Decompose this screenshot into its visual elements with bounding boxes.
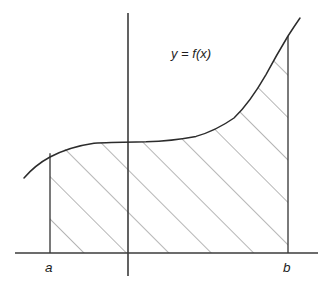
figure-canvas: y = f(x) a b xyxy=(0,0,333,286)
upper-limit-label: b xyxy=(283,260,291,275)
integral-area-figure: y = f(x) a b xyxy=(0,0,333,286)
hatch-pattern-fill xyxy=(40,10,300,260)
shaded-area-under-curve xyxy=(40,10,300,260)
function-label: y = f(x) xyxy=(170,46,211,61)
lower-limit-label: a xyxy=(45,260,53,275)
